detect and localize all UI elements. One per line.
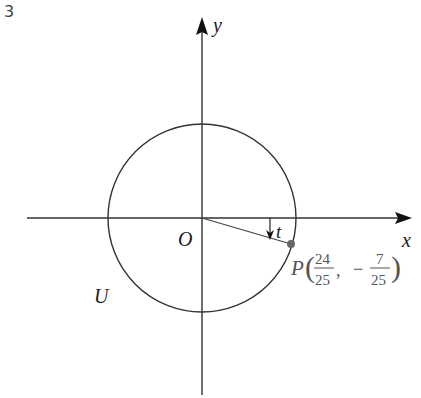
y-axis-label: y [211,14,222,37]
minus-sign: − [353,259,363,279]
x-numerator: 24 [315,251,331,267]
angle-label: t [276,221,282,242]
unit-circle-diagram: y x O t U P ( 24 25 , − 7 25 ) [0,0,421,398]
right-paren: ) [391,250,401,284]
x-axis-label: x [401,229,411,251]
left-paren: ( [305,250,315,284]
point-name: P [290,256,304,280]
comma: , [336,260,341,280]
x-axis [27,212,412,224]
x-denominator: 25 [315,272,330,288]
y-denominator: 25 [371,272,386,288]
point-p-dot [287,240,295,248]
y-numerator: 7 [376,251,384,267]
y-axis [196,17,208,395]
circle-label: U [94,285,110,307]
origin-label: O [178,228,192,250]
point-p-label: P ( 24 25 , − 7 25 ) [290,250,401,288]
